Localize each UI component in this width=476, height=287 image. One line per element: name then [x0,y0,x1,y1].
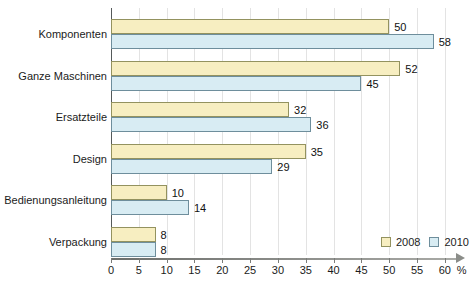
bar-value-label: 8 [161,244,167,256]
bar-group: 5245 [111,61,456,91]
category-label: Komponenten [39,28,108,40]
legend: 20082010 [381,236,469,248]
x-tick-label: 50 [383,264,395,276]
x-tick-label: 55 [411,264,423,276]
bar-value-label: 35 [311,146,323,158]
x-tick [111,258,112,263]
bar-value-label: 45 [366,78,378,90]
legend-item[interactable]: 2010 [429,236,468,248]
category-label: Ersatzteile [56,111,107,123]
x-tick-label: 15 [188,264,200,276]
category-label: Verpackung [49,236,107,248]
bar-value-label: 32 [294,104,306,116]
legend-label: 2010 [444,236,468,248]
bar-group: 3529 [111,144,456,174]
bar [111,117,311,132]
legend-swatch-icon [429,237,439,247]
bar [111,144,306,159]
x-tick [389,258,390,263]
x-axis-tick-labels: 051015202530354045505560% [111,264,476,280]
bar-value-label: 50 [394,21,406,33]
bar [111,34,434,49]
x-tick [334,258,335,263]
bar [111,159,272,174]
legend-swatch-icon [381,237,391,247]
x-tick-label: 5 [136,264,142,276]
x-tick [222,258,223,263]
x-tick-label: 10 [161,264,173,276]
x-tick [445,258,446,263]
bar [111,76,361,91]
bar-group: 3236 [111,102,456,132]
legend-label: 2008 [396,236,420,248]
bar [111,185,167,200]
category-label: Bedienungsanleitung [4,194,107,206]
bar [111,61,400,76]
bar-value-label: 52 [405,63,417,75]
x-tick-label: 60 [439,264,451,276]
x-tick-label: 30 [272,264,284,276]
bar-value-label: 10 [172,187,184,199]
x-tick [306,258,307,263]
bar-value-label: 58 [439,36,451,48]
bar-chart: KomponentenGanze MaschinenErsatzteileDes… [0,0,476,287]
x-tick [417,258,418,263]
bar-group: 1014 [111,185,456,215]
bar [111,227,156,242]
bar-value-label: 8 [161,229,167,241]
x-tick [139,258,140,263]
bar [111,102,289,117]
x-tick-label: 20 [216,264,228,276]
x-axis-unit-label: % [457,264,467,276]
x-tick [167,258,168,263]
category-label: Design [73,153,107,165]
x-tick-label: 0 [108,264,114,276]
x-tick-label: 25 [244,264,256,276]
x-axis-arrow-icon [456,253,465,263]
bar-value-label: 29 [277,161,289,173]
plot-area: 5058524532363529101488 05101520253035404… [111,8,456,258]
bar-value-label: 36 [316,119,328,131]
bar [111,200,189,215]
x-tick-label: 45 [355,264,367,276]
x-tick [278,258,279,263]
bar [111,19,389,34]
bar-group: 5058 [111,19,456,49]
category-label: Ganze Maschinen [18,70,107,82]
legend-item[interactable]: 2008 [381,236,420,248]
bar-value-label: 14 [194,202,206,214]
x-tick [250,258,251,263]
category-axis-labels: KomponentenGanze MaschinenErsatzteileDes… [0,8,107,258]
x-tick [194,258,195,263]
bar [111,242,156,257]
x-tick-label: 40 [327,264,339,276]
x-tick-label: 35 [300,264,312,276]
x-tick [361,258,362,263]
